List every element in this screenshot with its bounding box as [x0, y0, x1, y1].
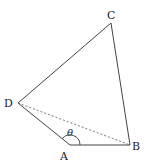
angle-label-theta: θ: [67, 127, 73, 138]
label-c: C: [107, 9, 115, 22]
label-d: D: [4, 97, 13, 110]
label-a: A: [59, 150, 69, 163]
edge-bc: [111, 23, 130, 145]
edge-cd: [18, 23, 111, 103]
label-b: B: [132, 140, 140, 153]
diagonal-db: [18, 103, 130, 145]
quadrilateral-diagram: C D A B θ: [0, 0, 146, 166]
